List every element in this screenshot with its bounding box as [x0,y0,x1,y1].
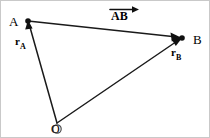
vector-ra-shaft [30,26,58,124]
vector-ab-label: AB [111,10,128,22]
point-b-label: B [193,33,202,46]
vector-ra [25,20,57,123]
point-b-marker [179,35,185,41]
vector-rb [57,38,182,123]
vector-ra-label: rA [15,36,26,50]
vector-ra-subscript: A [20,42,26,51]
origin-label: O [51,123,60,135]
vector-rb-subscript: B [176,53,181,62]
vector-ab-shaft [28,21,177,37]
vector-diagram-figure: A B O rA rB AB [0,0,210,138]
vector-rb-shaft [57,42,177,124]
vector-ab [28,21,182,42]
point-a-label: A [9,15,18,28]
vector-diagram-canvas [1,1,210,138]
vector-rb-label: rB [171,47,181,61]
point-a-marker [25,18,31,24]
